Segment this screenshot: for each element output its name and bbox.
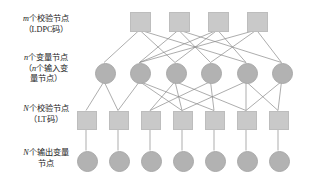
label-ldpc-check-nodes-symbol: m	[23, 14, 29, 23]
graph-node-variable	[130, 63, 151, 84]
graph-node-output_variable	[237, 151, 258, 172]
graph-edge-variable-to-lt	[182, 82, 246, 111]
graph-edge-check-to-variable	[175, 30, 218, 63]
label-lt-check-nodes-symbol: N	[23, 104, 28, 113]
graph-edge-variable-to-lt	[246, 82, 282, 111]
label-variable-nodes-line-1: n个变量节点	[4, 53, 88, 64]
label-lt-check-nodes-line-2: （LT码）	[4, 115, 88, 126]
edges-group	[86, 30, 282, 151]
label-variable-nodes: n个变量节点（n个输入变量节点）	[4, 53, 88, 85]
label-output-variable-nodes: N个输出变量节点	[4, 148, 88, 169]
label-output-variable-nodes-line-1: N个输出变量	[4, 148, 88, 159]
graph-edge-check-to-variable	[218, 30, 247, 63]
graph-node-lt_check	[109, 111, 129, 130]
graph-edge-variable-to-lt	[175, 82, 246, 111]
label-lt-check-nodes-line-1: N个校验节点	[4, 104, 88, 115]
graph-edge-variable-to-lt	[140, 82, 183, 111]
label-variable-nodes-symbol: n	[24, 53, 28, 62]
graph-node-ldpc_check	[169, 12, 190, 32]
label-variable-nodes-line-3: 量节点）	[4, 74, 88, 85]
graph-edge-check-to-variable	[257, 30, 282, 63]
graph-node-variable	[166, 63, 187, 84]
graph-edge-check-to-variable	[211, 30, 257, 63]
graph-edge-variable-to-lt	[118, 82, 140, 111]
graph-node-lt_check	[141, 111, 161, 130]
graph-edge-variable-to-lt	[150, 82, 211, 111]
label-ldpc-check-nodes: m个校验节点（LDPC码）	[4, 14, 88, 35]
graph-node-variable	[237, 63, 258, 84]
label-ldpc-check-nodes-line-1: m个校验节点	[4, 14, 88, 25]
graph-node-output_variable	[269, 151, 290, 172]
graph-node-output_variable	[109, 151, 130, 172]
graph-node-ldpc_check	[130, 12, 151, 32]
graph-node-output_variable	[173, 151, 194, 172]
graph-node-lt_check	[269, 111, 289, 130]
graph-edge-variable-to-lt	[278, 82, 282, 111]
figure-container: m个校验节点（LDPC码）n个变量节点（n个输入变量节点）N个校验节点（LT码）…	[0, 0, 324, 183]
label-variable-nodes-symbol-2: n	[32, 64, 36, 73]
graph-node-lt_check	[205, 111, 225, 130]
graph-edge-variable-to-lt	[150, 82, 175, 111]
graph-edge-variable-to-lt	[86, 82, 104, 111]
graph-node-ldpc_check	[208, 12, 229, 32]
label-ldpc-check-nodes-line-2: （LDPC码）	[4, 25, 88, 36]
graph-node-output_variable	[205, 151, 226, 172]
graph-edge-check-to-variable	[104, 30, 140, 63]
graph-node-variable	[272, 63, 293, 84]
graph-edge-check-to-variable	[140, 30, 179, 63]
graph-node-lt_check	[173, 111, 193, 130]
graph-edge-variable-to-lt	[104, 82, 118, 111]
graph-edge-variable-to-lt	[140, 82, 215, 111]
label-variable-nodes-line-2: （n个输入变	[4, 64, 88, 75]
label-output-variable-nodes-line-2: 节点	[4, 159, 88, 170]
graph-node-output_variable	[141, 151, 162, 172]
label-output-variable-nodes-symbol: N	[23, 148, 28, 157]
label-lt-check-nodes: N个校验节点（LT码）	[4, 104, 88, 125]
graph-node-variable	[201, 63, 222, 84]
graph-node-lt_check	[237, 111, 257, 130]
graph-node-variable	[95, 63, 116, 84]
graph-node-ldpc_check	[247, 12, 268, 32]
